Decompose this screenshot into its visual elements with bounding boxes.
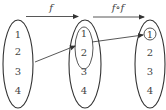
set-codomain: 1 2 3 4 <box>135 20 165 108</box>
arrow-f-compose-f: f∘f <box>93 2 144 17</box>
element-2: 2 <box>81 47 87 58</box>
element-3: 3 <box>147 66 153 77</box>
set-middle: 1 2 3 4 <box>69 20 101 108</box>
mapping-arrow-subset-to-1 <box>92 35 143 42</box>
element-1: 1 <box>147 29 153 40</box>
element-4: 4 <box>147 85 153 96</box>
element-1: 1 <box>81 28 87 39</box>
set-domain: 1 2 3 4 <box>3 20 33 108</box>
label-f: f <box>48 2 55 13</box>
diagram-canvas: f f∘f 1 2 3 4 1 2 3 4 1 2 3 4 <box>0 0 166 110</box>
label-f-compose-f: f∘f <box>111 2 127 13</box>
element-4: 4 <box>81 85 87 96</box>
element-4: 4 <box>15 85 21 96</box>
element-2: 2 <box>15 46 21 57</box>
element-1: 1 <box>15 29 21 40</box>
arrow-f: f <box>26 2 78 17</box>
function-composition-diagram: f f∘f 1 2 3 4 1 2 3 4 1 2 3 4 <box>0 0 166 110</box>
element-3: 3 <box>81 66 87 77</box>
element-2: 2 <box>147 47 153 58</box>
element-3: 3 <box>15 66 21 77</box>
